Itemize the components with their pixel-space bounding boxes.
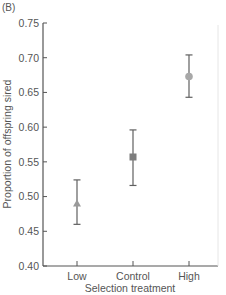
chart: 0.400.450.500.550.600.650.700.75LowContr… (0, 0, 226, 295)
y-tick-label: 0.50 (19, 190, 40, 202)
square-marker (130, 153, 137, 160)
y-tick-label: 0.45 (19, 225, 40, 237)
x-tick-label: Low (67, 270, 87, 282)
y-tick-label: 0.40 (19, 260, 40, 272)
y-axis-title: Proportion of offspring sired (1, 79, 13, 208)
y-tick-label: 0.70 (19, 52, 40, 64)
y-tick-label: 0.75 (19, 17, 40, 29)
x-tick-label: High (178, 270, 200, 282)
y-tick-label: 0.65 (19, 86, 40, 98)
x-axis-title: Selection treatment (85, 282, 176, 294)
x-tick-label: Control (116, 270, 150, 282)
circle-marker (185, 73, 193, 81)
y-tick-label: 0.55 (19, 156, 40, 168)
y-tick-label: 0.60 (19, 121, 40, 133)
triangle-marker (73, 200, 81, 207)
